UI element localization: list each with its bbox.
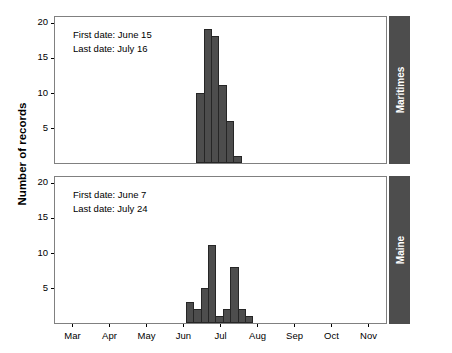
annotation-first-date: First date: June 15 [73, 28, 152, 42]
y-axis-tick-mark [51, 58, 54, 59]
panel-maritimes: First date: June 15 Last date: July 16 M… [54, 16, 410, 164]
x-axis-tick-mark [220, 324, 221, 327]
y-axis-tick-label: 20 [37, 176, 48, 187]
x-axis-tick-label: Nov [347, 330, 391, 341]
strip-text-maritimes: Maritimes [394, 67, 405, 114]
x-axis-tick-mark [146, 324, 147, 327]
y-axis-tick-mark [51, 93, 54, 94]
plot-area-maine: First date: June 7 Last date: July 24 [54, 176, 387, 324]
strip-label-maine: Maine [389, 176, 410, 324]
strip-text-maine: Maine [394, 236, 405, 264]
y-axis-tick-label: 10 [37, 87, 48, 98]
x-axis-tick-mark [331, 324, 332, 327]
y-axis-tick-mark [51, 253, 54, 254]
y-axis-tick-label: 5 [43, 282, 48, 293]
x-axis: MarAprMayJunJulAugSepOctNov [54, 324, 387, 350]
annotation-maritimes: First date: June 15 Last date: July 16 [73, 28, 152, 56]
annotation-last-date: Last date: July 24 [73, 202, 147, 216]
y-axis-title: Number of records [16, 74, 28, 234]
y-axis-tick-label: 15 [37, 51, 48, 62]
x-axis-tick-mark [72, 324, 73, 327]
y-axis-tick-label: 10 [37, 247, 48, 258]
bar [245, 316, 254, 323]
y-axis-tick-mark [51, 183, 54, 184]
x-axis-tick-mark [257, 324, 258, 327]
panel-maine: First date: June 7 Last date: July 24 Ma… [54, 176, 410, 324]
y-axis-tick-mark [51, 288, 54, 289]
y-axis-tick-mark [51, 23, 54, 24]
y-axis-tick-label: 15 [37, 211, 48, 222]
x-axis-tick-mark [368, 324, 369, 327]
annotation-first-date: First date: June 7 [73, 188, 147, 202]
x-axis-tick-mark [109, 324, 110, 327]
y-axis-tick-mark [51, 218, 54, 219]
y-axis-tick-label: 20 [37, 16, 48, 27]
x-axis-tick-mark [183, 324, 184, 327]
bar [208, 245, 217, 323]
y-axis-tick-label: 5 [43, 122, 48, 133]
annotation-maine: First date: June 7 Last date: July 24 [73, 188, 147, 216]
x-axis-tick-mark [294, 324, 295, 327]
y-axis-tick-mark [51, 128, 54, 129]
bar [233, 156, 242, 163]
annotation-last-date: Last date: July 16 [73, 42, 152, 56]
plot-area-maritimes: First date: June 15 Last date: July 16 [54, 16, 387, 164]
figure-histogram-records-by-month: Number of records First date: June 15 La… [0, 0, 452, 353]
strip-label-maritimes: Maritimes [389, 16, 410, 164]
